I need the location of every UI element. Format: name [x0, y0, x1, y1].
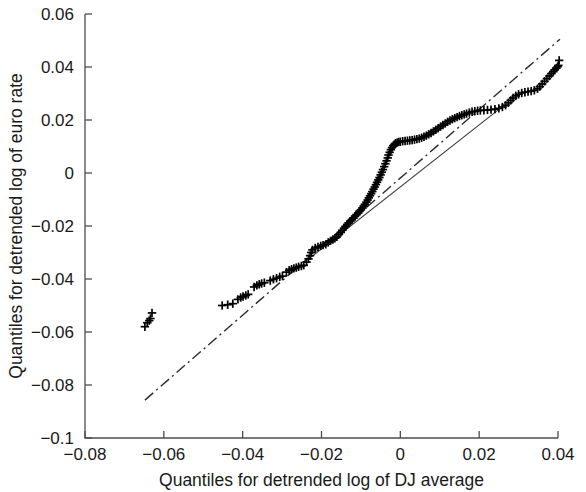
x-tick-label: −0.02	[300, 445, 343, 464]
y-axis-title: Quantiles for detrended log of euro rate	[6, 73, 26, 378]
x-tick-label: 0	[396, 445, 405, 464]
y-tick-label: 0.04	[41, 58, 74, 77]
axis-labels: −0.1−0.08−0.06−0.04−0.0200.020.040.06−0.…	[6, 5, 575, 490]
y-tick-label: −0.08	[31, 376, 74, 395]
x-tick-label: −0.06	[142, 445, 185, 464]
x-axis-title: Quantiles for detrended log of DJ averag…	[159, 470, 484, 490]
x-tick-label: −0.04	[221, 445, 264, 464]
x-tick-label: 0.02	[463, 445, 496, 464]
y-tick-label: −0.02	[31, 217, 74, 236]
y-tick-label: 0.06	[41, 5, 74, 24]
plot-canvas: −0.1−0.08−0.06−0.04−0.0200.020.040.06−0.…	[0, 0, 586, 492]
x-tick-label: −0.08	[63, 445, 106, 464]
axes	[85, 14, 558, 438]
qq-plot-figure: −0.1−0.08−0.06−0.04−0.0200.020.040.06−0.…	[0, 0, 586, 492]
data-points	[141, 56, 564, 331]
axis-spines	[85, 14, 558, 438]
y-tick-label: 0.02	[41, 111, 74, 130]
x-tick-label: 0.04	[541, 445, 574, 464]
y-tick-label: −0.06	[31, 323, 74, 342]
y-tick-label: 0	[65, 164, 74, 183]
y-tick-label: −0.04	[31, 270, 74, 289]
